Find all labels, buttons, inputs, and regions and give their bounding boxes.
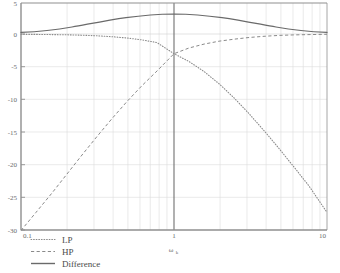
omega-subscript-k: k xyxy=(176,250,179,255)
y-tick-label-m20: -20 xyxy=(8,161,18,169)
legend-label-lp: LP xyxy=(62,235,73,245)
bode-magnitude-chart: 5 0 -5 -10 -15 -20 -25 -30 0.1 1 10 ω k … xyxy=(0,0,340,273)
y-tick-label-5: 5 xyxy=(14,0,18,8)
x-tick-label-0-1: 0.1 xyxy=(23,232,32,240)
x-tick-label-1: 1 xyxy=(172,232,176,240)
y-tick-label-m10: -10 xyxy=(8,96,18,104)
figure-container: 5 0 -5 -10 -15 -20 -25 -30 0.1 1 10 ω k … xyxy=(0,0,340,273)
omega-k-annotation: ω k xyxy=(169,246,179,255)
legend-label-hp: HP xyxy=(62,247,74,257)
legend-label-difference: Difference xyxy=(62,259,100,269)
y-tick-label-m30: -30 xyxy=(8,227,18,235)
y-tick-label-m25: -25 xyxy=(8,194,18,202)
omega-symbol: ω xyxy=(169,246,174,254)
x-tick-label-10: 10 xyxy=(319,232,327,240)
y-tick-label-m15: -15 xyxy=(8,129,18,137)
y-tick-label-0: 0 xyxy=(14,31,18,39)
y-tick-label-m5: -5 xyxy=(11,63,17,71)
legend: LP HP Difference xyxy=(31,235,100,269)
